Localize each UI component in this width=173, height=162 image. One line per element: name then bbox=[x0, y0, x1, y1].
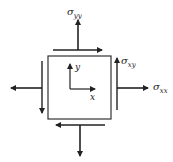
sigma-xx-label: σxx bbox=[153, 81, 168, 95]
sigma-xy-label: σxy bbox=[121, 55, 137, 69]
axis-x-label: x bbox=[90, 92, 95, 102]
axis-y-label: y bbox=[74, 62, 81, 72]
stress-element-diagram: σyy σxy σxx y x bbox=[0, 0, 173, 162]
sigma-yy-label: σyy bbox=[67, 6, 83, 20]
